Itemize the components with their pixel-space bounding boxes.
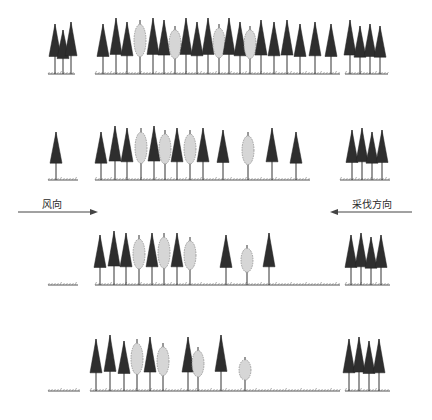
wind-direction-label: 风向 [42,196,62,211]
conifer-tree [290,132,302,180]
broadleaf-tree [192,347,204,391]
conifer-tree [171,128,183,180]
conifer-tree [343,339,355,391]
conifer-tree [65,22,77,74]
conifer-tree [355,233,367,285]
conifer-tree [255,20,267,74]
conifer-tree [268,22,280,74]
conifer-tree [118,341,130,391]
conifer-tree [356,128,368,180]
conifer-tree [325,24,337,74]
broadleaf-tree [242,132,254,180]
broadleaf-tree [157,343,169,391]
conifer-tree [97,24,109,74]
broadleaf-tree [131,339,143,391]
conifer-tree [191,22,203,74]
broadleaf-tree [133,235,145,285]
conifer-tree [353,337,365,391]
broadleaf-tree [244,26,256,74]
forest-stages [48,18,390,391]
conifer-tree [121,22,133,74]
stage-1-row [48,18,389,74]
conifer-tree [309,22,321,74]
broadleaf-tree [184,130,196,180]
conifer-tree [354,26,366,74]
conifer-tree [94,235,106,285]
conifer-tree [346,130,358,180]
conifer-tree [365,237,377,285]
stage-3-row [48,231,390,285]
conifer-tree [158,20,170,74]
conifer-tree [294,24,306,74]
broadleaf-tree [135,128,147,180]
conifer-tree [104,335,116,391]
conifer-tree [121,128,133,180]
conifer-tree [363,341,375,391]
stage-4-row [48,335,390,391]
conifer-tree [147,18,159,74]
cutting-direction-label: 采伐方向 [352,196,392,211]
conifer-tree [373,339,385,391]
conifer-tree [109,126,121,180]
conifer-tree [144,337,156,391]
stage-2-row [48,126,390,180]
conifer-tree [108,231,120,285]
conifer-tree [374,26,386,74]
conifer-tree [376,130,388,180]
conifer-tree [220,235,232,285]
conifer-tree [375,235,387,285]
broadleaf-tree [213,24,225,74]
conifer-tree [110,18,122,74]
broadleaf-tree [159,130,171,180]
broadleaf-tree [134,20,146,74]
conifer-tree [215,335,227,391]
broadleaf-tree [239,357,251,391]
conifer-tree [197,128,209,180]
conifer-tree [148,126,160,180]
conifer-tree [217,130,229,180]
conifer-tree [366,132,378,180]
broadleaf-tree [158,233,170,285]
conifer-tree [263,233,275,285]
conifer-tree [90,339,102,391]
conifer-tree [171,233,183,285]
conifer-tree [344,20,356,74]
conifer-tree [223,18,235,74]
conifer-tree [120,233,132,285]
conifer-tree [50,132,62,180]
conifer-tree [202,18,214,74]
conifer-tree [364,24,376,74]
conifer-tree [234,22,246,74]
broadleaf-tree [184,237,196,285]
conifer-tree [281,20,293,74]
broadleaf-tree [241,245,253,285]
conifer-tree [345,235,357,285]
conifer-tree [95,132,107,180]
conifer-tree [266,128,278,180]
figure-caption [110,404,325,413]
conifer-tree [180,18,192,74]
broadleaf-tree [169,26,181,74]
conifer-tree [146,233,158,285]
